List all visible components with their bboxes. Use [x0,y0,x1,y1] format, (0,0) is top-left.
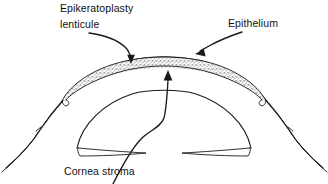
arrowhead-cornea-stroma [164,70,173,80]
label-cornea-stroma: Cornea stroma [64,165,135,177]
label-epithelium: Epithelium [228,17,278,29]
label-epikeratoplasty-line2: lenticule [60,18,99,30]
cornea-drawing: Epikeratoplasty lenticule Epithelium Cor… [2,2,327,184]
anterior-sliver-left [78,148,146,156]
label-epikeratoplasty-line1: Epikeratoplasty [60,2,134,14]
leader-epikeratoplasty [89,33,131,58]
lenticule-tip-right [259,100,266,106]
epikeratoplasty-diagram: Epikeratoplasty lenticule Epithelium Cor… [0,0,328,184]
anterior-sliver-right [182,148,250,156]
diagram-root: Epikeratoplasty lenticule Epithelium Cor… [0,0,328,184]
leader-epithelium [200,32,242,51]
